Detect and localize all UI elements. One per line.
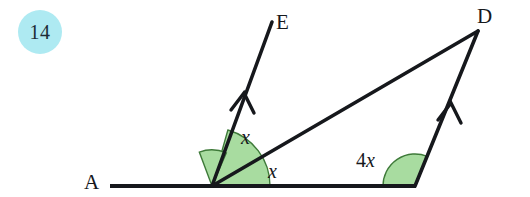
angle-label-dca-coefficient: 4	[356, 149, 366, 171]
angle-label-dba-variable: x	[268, 160, 277, 182]
point-label-e: E	[276, 12, 289, 33]
angle-label-dca-variable: x	[366, 149, 375, 171]
geometry-diagram	[0, 0, 530, 197]
angle-label-ebd-variable: x	[241, 126, 250, 148]
angle-label-dba: x	[268, 161, 277, 181]
point-label-d: D	[477, 6, 492, 27]
angle-label-dca: 4x	[356, 150, 375, 170]
angle-label-ebd: x	[241, 127, 250, 147]
diagram-page: 14 A E D x x 4x	[0, 0, 530, 197]
point-label-a: A	[84, 172, 99, 193]
